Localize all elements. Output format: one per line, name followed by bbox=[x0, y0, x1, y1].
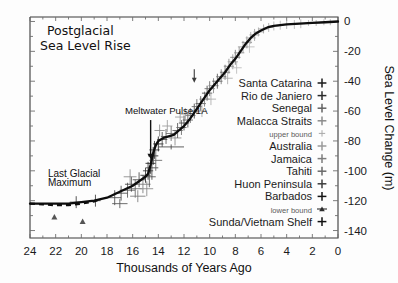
legend-label: Malacca Straits bbox=[237, 115, 313, 127]
legend-label: Australia bbox=[269, 140, 313, 152]
legend-label: Senegal bbox=[272, 102, 312, 114]
legend-label: Tahiti bbox=[286, 165, 312, 177]
chart-title-line2: Sea Level Rise bbox=[40, 38, 131, 53]
y-tick-label: -80 bbox=[344, 135, 361, 147]
legend-label: Jamaica bbox=[271, 153, 313, 165]
x-tick-label: 6 bbox=[258, 245, 264, 257]
y-tick-label: -60 bbox=[344, 105, 361, 117]
x-tick-label: 8 bbox=[232, 245, 238, 257]
sea-level-chart: 242220181614121086420 0-20-40-60-80-100-… bbox=[0, 0, 398, 283]
annotation-label: Maximum bbox=[48, 177, 91, 188]
y-tick-label: -120 bbox=[344, 195, 367, 207]
x-tick-label: 16 bbox=[126, 245, 139, 257]
y-tick-label: 0 bbox=[344, 15, 350, 27]
x-tick-label: 10 bbox=[203, 245, 216, 257]
x-axis-label: Thousands of Years Ago bbox=[116, 261, 252, 275]
legend-label: Barbados bbox=[265, 190, 313, 202]
x-tick-label: 24 bbox=[24, 245, 37, 257]
x-tick-label: 18 bbox=[101, 245, 114, 257]
y-tick-label: -140 bbox=[344, 225, 367, 237]
legend-label: Huon Peninsula bbox=[234, 178, 313, 190]
x-tick-label: 0 bbox=[335, 245, 341, 257]
x-tick-label: 2 bbox=[309, 245, 315, 257]
annotation-label: Meltwater Pulse 1A bbox=[125, 105, 208, 116]
x-tick-label: 20 bbox=[75, 245, 88, 257]
x-tick-label: 22 bbox=[49, 245, 62, 257]
y-tick-label: -40 bbox=[344, 75, 361, 87]
legend-label: Rio de Janiero bbox=[241, 90, 312, 102]
chart-title-line1: Postglacial bbox=[47, 23, 114, 38]
x-tick-label: 14 bbox=[152, 245, 165, 257]
legend-label: lower bound bbox=[271, 206, 312, 215]
y-tick-label: -20 bbox=[344, 45, 361, 57]
y-tick-label: -100 bbox=[344, 165, 367, 177]
x-tick-label: 4 bbox=[283, 245, 290, 257]
y-axis-label: Sea Level Change (m) bbox=[382, 65, 396, 190]
legend-label: Sunda/Vietnam Shelf bbox=[209, 216, 313, 228]
legend-label: upper bound bbox=[269, 130, 312, 139]
legend-label: Santa Catarina bbox=[239, 77, 313, 89]
x-tick-label: 12 bbox=[178, 245, 191, 257]
